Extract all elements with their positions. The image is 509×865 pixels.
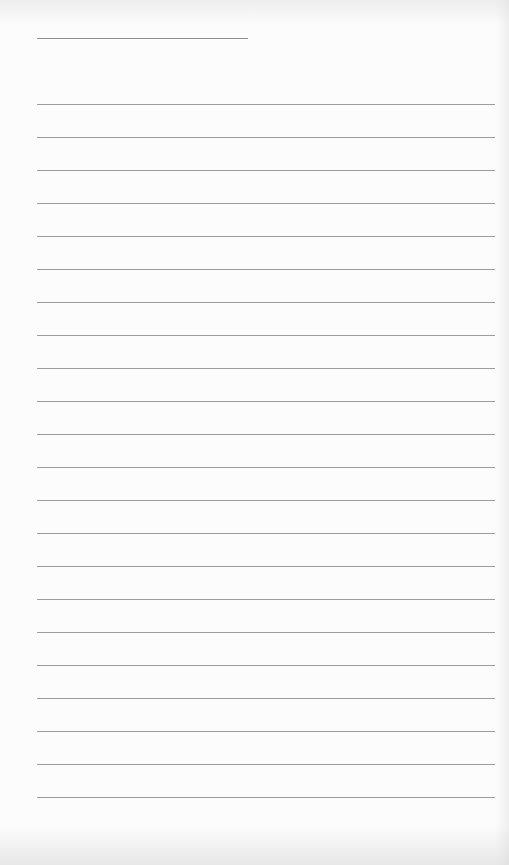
ruled-line bbox=[37, 566, 495, 567]
ruled-line bbox=[37, 203, 495, 204]
ruled-line bbox=[37, 368, 495, 369]
ruled-line bbox=[37, 632, 495, 633]
ruled-line bbox=[37, 137, 495, 138]
ruled-line bbox=[37, 698, 495, 699]
header-name-line bbox=[37, 38, 248, 39]
ruled-line bbox=[37, 764, 495, 765]
ruled-line bbox=[37, 731, 495, 732]
ruled-line bbox=[37, 599, 495, 600]
ruled-line bbox=[37, 170, 495, 171]
ruled-line bbox=[37, 401, 495, 402]
ruled-line bbox=[37, 533, 495, 534]
ruled-line bbox=[37, 269, 495, 270]
ruled-line bbox=[37, 236, 495, 237]
ruled-line bbox=[37, 467, 495, 468]
ruled-line bbox=[37, 434, 495, 435]
ruled-line bbox=[37, 665, 495, 666]
ruled-line bbox=[37, 797, 495, 798]
ruled-line bbox=[37, 104, 495, 105]
ruled-line bbox=[37, 335, 495, 336]
lined-paper-page bbox=[0, 0, 509, 865]
ruled-line bbox=[37, 500, 495, 501]
ruled-line bbox=[37, 302, 495, 303]
